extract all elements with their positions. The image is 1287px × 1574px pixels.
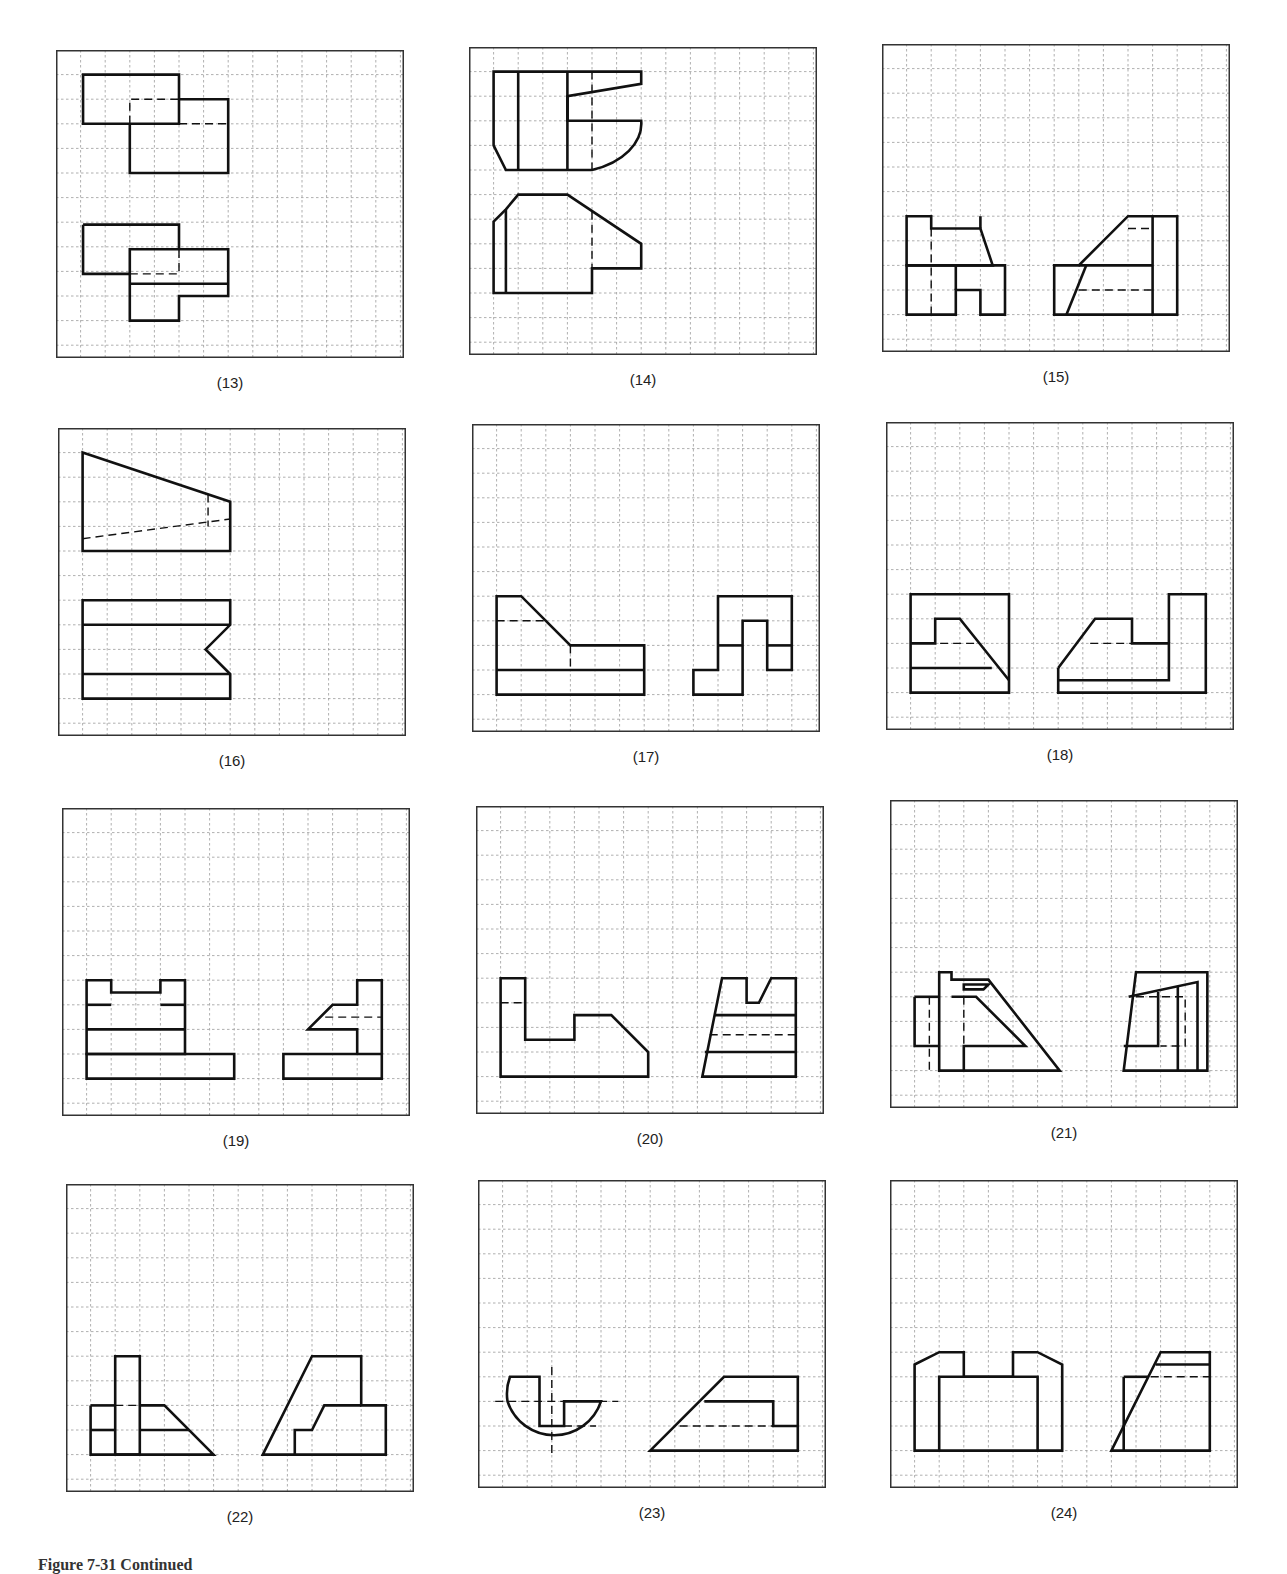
drawing-panel: (22) [66,1184,414,1532]
grid-lines [56,50,404,358]
grid-drawing [66,1184,414,1492]
grid-drawing [886,422,1234,730]
grid-drawing [472,424,820,732]
panel-label: (17) [472,748,820,765]
grid-lines [62,808,410,1116]
drawing-panel: (20) [476,806,824,1154]
panel-label: (24) [890,1504,1238,1521]
panel-label: (13) [56,374,404,391]
visible-edge [1129,982,1198,1071]
panel-label: (22) [66,1508,414,1525]
orthographic-views [495,1367,798,1453]
visible-edge [83,225,179,250]
visible-edge [1058,619,1169,681]
grid-drawing [890,800,1238,1108]
grid-lines [890,1180,1238,1488]
drawing-panel: (14) [469,47,817,395]
visible-edge [507,1377,601,1435]
figure-caption: Figure 7-31 Continued [38,1556,192,1574]
visible-edge [964,985,989,990]
grid-lines [58,428,406,736]
drawing-panel: (24) [890,1180,1238,1528]
panel-label: (23) [478,1504,826,1521]
visible-edge [87,980,185,1054]
drawing-panel: (21) [890,800,1238,1148]
panel-label: (15) [882,368,1230,385]
panel-label: (21) [890,1124,1238,1141]
visible-edge [650,1377,798,1451]
grid-lines [478,1180,826,1488]
grid-lines [476,806,824,1114]
grid-drawing [890,1180,1238,1488]
orthographic-views [907,216,1178,314]
panel-label: (19) [62,1132,410,1149]
drawing-panel: (13) [56,50,404,398]
panel-label: (14) [469,371,817,388]
drawing-panel: (19) [62,808,410,1156]
panel-label: (16) [58,752,406,769]
grid-lines [66,1184,414,1492]
grid-drawing [58,428,406,736]
drawing-panel: (18) [886,422,1234,770]
visible-edge [939,1377,1037,1451]
visible-edge [704,1401,797,1426]
grid-lines [472,424,820,732]
grid-drawing [56,50,404,358]
grid-lines [890,800,1238,1108]
panel-label: (18) [886,746,1234,763]
grid-drawing [478,1180,826,1488]
visible-edge [952,997,1026,1071]
drawing-panel: (23) [478,1180,826,1528]
panel-label: (20) [476,1130,824,1147]
grid-drawing [62,808,410,1116]
drawing-panel: (16) [58,428,406,776]
grid-drawing [882,44,1230,352]
grid-lines [469,47,817,355]
grid-drawing [469,47,817,355]
grid-lines [886,422,1234,730]
drawing-panel: (17) [472,424,820,772]
drawing-panel: (15) [882,44,1230,392]
grid-drawing [476,806,824,1114]
visible-edge [83,225,130,274]
